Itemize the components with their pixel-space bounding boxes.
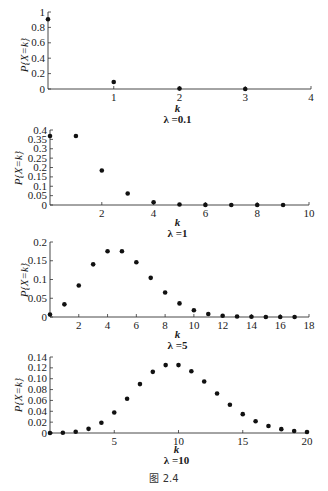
- lambda-label: λ =0.1: [163, 113, 191, 125]
- data-point: [46, 17, 51, 22]
- data-point: [100, 168, 105, 173]
- data-point: [292, 429, 297, 434]
- data-point: [229, 203, 234, 208]
- x-tick-label: 4: [151, 207, 157, 219]
- y-tick-label: 1: [40, 6, 46, 18]
- y-tick-label: 0.06: [28, 394, 48, 406]
- data-point: [177, 86, 182, 91]
- data-point: [266, 424, 271, 429]
- y-tick-label: 0.2: [33, 236, 47, 248]
- data-point: [163, 290, 168, 295]
- data-point: [105, 249, 110, 254]
- y-tick-label: 0.10: [28, 372, 48, 384]
- data-point: [240, 412, 245, 417]
- data-point: [177, 301, 182, 306]
- y-tick-label: 0: [42, 427, 48, 439]
- chart-panel-4: 00.020.040.060.080.100.120.145101520P{X=…: [12, 351, 313, 467]
- x-tick-label: 15: [237, 435, 249, 447]
- data-point: [243, 87, 248, 92]
- y-axis-label: P{X=k}: [18, 37, 30, 73]
- y-tick-label: 0.15: [28, 254, 48, 266]
- x-tick-label: 6: [203, 207, 209, 219]
- data-point: [278, 315, 283, 320]
- data-point: [151, 370, 156, 375]
- x-tick-label: 20: [302, 435, 314, 447]
- data-point: [292, 315, 297, 320]
- y-tick-label: 0: [40, 83, 46, 95]
- data-point: [48, 134, 53, 139]
- data-point: [48, 312, 53, 317]
- data-point: [305, 430, 310, 435]
- data-point: [134, 260, 139, 265]
- data-point: [125, 191, 130, 196]
- x-tick-label: 4: [105, 319, 111, 331]
- lambda-label: λ =10: [164, 454, 190, 466]
- data-point: [151, 200, 156, 205]
- chart-panel-1: 00.20.40.60.811234P{X=k}kλ =0.1: [18, 6, 314, 126]
- x-tick-label: 14: [246, 319, 258, 331]
- data-point: [148, 276, 153, 281]
- y-tick-label: 0.4: [31, 52, 45, 64]
- data-point: [177, 202, 182, 207]
- x-tick-label: 10: [304, 207, 316, 219]
- data-point: [189, 369, 194, 374]
- data-point: [176, 363, 181, 368]
- x-tick-label: 5: [112, 435, 118, 447]
- data-point: [220, 313, 225, 318]
- x-tick-label: 16: [275, 319, 287, 331]
- lambda-label: λ =5: [168, 339, 188, 351]
- data-point: [192, 308, 197, 313]
- x-tick-label: 1: [111, 91, 117, 103]
- x-tick-label: 2: [76, 319, 82, 331]
- data-point: [202, 379, 207, 384]
- y-tick-label: 0.12: [28, 361, 47, 373]
- data-point: [76, 283, 81, 288]
- data-point: [215, 391, 220, 396]
- y-axis-label: P{X=k}: [18, 262, 30, 298]
- lambda-label: λ =1: [168, 227, 188, 239]
- data-point: [255, 203, 260, 208]
- data-point: [125, 396, 130, 401]
- x-tick-label: 8: [254, 207, 260, 219]
- data-point: [264, 315, 269, 320]
- data-point: [163, 363, 168, 368]
- data-point: [62, 302, 67, 307]
- data-point: [61, 430, 66, 435]
- y-tick-label: 0: [42, 311, 48, 323]
- figure-caption: 图 2.4: [0, 470, 328, 485]
- data-point: [203, 203, 208, 208]
- data-point: [48, 431, 53, 436]
- data-point: [249, 315, 254, 320]
- data-point: [99, 420, 104, 425]
- y-tick-label: 0.2: [31, 67, 45, 79]
- x-tick-label: 3: [243, 91, 249, 103]
- data-point: [253, 419, 258, 424]
- data-point: [138, 382, 143, 387]
- data-point: [279, 427, 284, 432]
- y-tick-label: 0.6: [31, 36, 45, 48]
- y-tick-label: 0.4: [33, 124, 47, 136]
- y-tick-label: 0.8: [31, 21, 45, 33]
- data-point: [112, 410, 117, 415]
- data-point: [235, 314, 240, 319]
- data-point: [91, 262, 96, 267]
- data-point: [111, 80, 116, 85]
- x-tick-label: 6: [134, 319, 140, 331]
- y-tick-label: 0.1: [33, 273, 47, 285]
- y-tick-label: 0.08: [28, 383, 48, 395]
- chart-panel-2: 00.050.10.150.20.250.30.350.4246810P{X=k…: [12, 124, 315, 240]
- y-tick-label: 0.04: [28, 405, 48, 417]
- chart-panel-3: 00.050.10.150.224681012141618P{X=k}kλ =5: [18, 236, 315, 352]
- poisson-figure: 00.20.40.60.811234P{X=k}kλ =0.100.050.10…: [0, 0, 328, 491]
- y-tick-label: 0.14: [28, 351, 48, 363]
- y-axis-label: P{X=k}: [12, 150, 24, 186]
- x-tick-label: 18: [304, 319, 316, 331]
- x-tick-label: 10: [188, 319, 200, 331]
- y-axis-label: P{X=k}: [12, 377, 24, 413]
- data-point: [74, 134, 79, 139]
- x-tick-label: 12: [217, 319, 228, 331]
- y-tick-label: 0.02: [28, 416, 47, 428]
- x-tick-label: 2: [99, 207, 105, 219]
- x-tick-label: 8: [162, 319, 168, 331]
- data-point: [281, 203, 286, 208]
